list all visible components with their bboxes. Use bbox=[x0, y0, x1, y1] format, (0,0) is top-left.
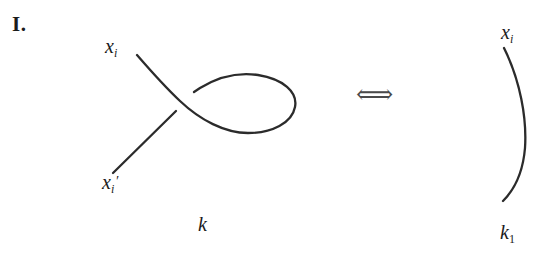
over-strand-with-loop bbox=[137, 55, 295, 133]
knot-diagram-svg bbox=[0, 0, 560, 264]
right-top-label-base: x bbox=[501, 21, 510, 43]
left-knot-name-label: k bbox=[198, 214, 207, 234]
right-knot-diagram bbox=[503, 48, 525, 201]
under-strand-segment bbox=[113, 111, 176, 173]
left-top-label-base: x bbox=[105, 35, 114, 57]
left-top-label-subscript: i bbox=[114, 46, 117, 60]
left-bottom-label-prime: ′ bbox=[115, 174, 118, 189]
left-endpoint-bottom-label: xi′ bbox=[102, 172, 117, 192]
right-endpoint-top-label: xi bbox=[501, 22, 513, 42]
equivalence-arrow-icon: ⟺ bbox=[356, 82, 393, 108]
right-top-label-subscript: i bbox=[510, 32, 513, 46]
left-knot-diagram bbox=[113, 55, 295, 173]
move-number-label: I. bbox=[12, 14, 26, 35]
right-knot-name-subscript: 1 bbox=[509, 232, 515, 246]
right-knot-name-label: k1 bbox=[500, 222, 515, 242]
reidemeister-move-figure: I. xi xi′ k ⟺ xi k1 bbox=[0, 0, 560, 264]
left-bottom-label-subscript: i bbox=[111, 182, 114, 196]
left-knot-name-base: k bbox=[198, 213, 207, 235]
left-endpoint-top-label: xi bbox=[105, 36, 117, 56]
left-bottom-label-base: x bbox=[102, 171, 111, 193]
right-knot-name-base: k bbox=[500, 221, 509, 243]
simple-arc-strand bbox=[503, 48, 525, 201]
